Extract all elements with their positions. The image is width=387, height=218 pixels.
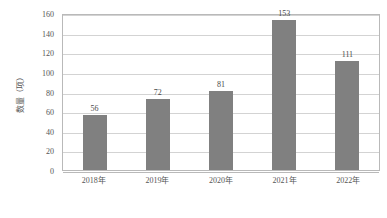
y-axis-tick-label: 140 (42, 29, 54, 38)
y-axis-tick-label: 60 (46, 108, 54, 117)
x-axis-tick-label: 2022年 (316, 174, 380, 194)
y-axis-tick-label: 20 (46, 147, 54, 156)
bar-value-label: 153 (278, 9, 290, 18)
y-axis-tick-label: 80 (46, 88, 54, 97)
bar[interactable]: 111 (335, 61, 359, 170)
bar-value-label: 111 (342, 50, 353, 59)
bar-value-label: 56 (91, 104, 99, 113)
gridline (63, 172, 379, 173)
y-axis-tick-label: 160 (42, 10, 54, 19)
y-axis-title-text: 数量（项） (14, 73, 25, 113)
bar-slot: 72 (126, 15, 189, 170)
x-axis-tick-label: 2018年 (62, 174, 126, 194)
y-axis-tick-label: 120 (42, 49, 54, 58)
bar[interactable]: 72 (146, 99, 170, 170)
y-axis-title: 数量（项） (8, 0, 30, 185)
plot-area: 567281153111 (62, 14, 380, 171)
bar[interactable]: 81 (209, 91, 233, 170)
y-axis-tick-labels: 020406080100120140160 (28, 14, 58, 171)
x-axis-tick-labels: 2018年2019年2020年2021年2022年 (62, 174, 380, 194)
y-axis-tick-label: 100 (42, 68, 54, 77)
bar[interactable]: 56 (83, 115, 107, 170)
bar-slot: 153 (253, 15, 316, 170)
y-axis-tick-label: 0 (50, 167, 54, 176)
y-axis-tick-label: 40 (46, 127, 54, 136)
x-axis-tick-label: 2019年 (126, 174, 190, 194)
bar[interactable]: 153 (272, 20, 296, 170)
bar-slot: 81 (189, 15, 252, 170)
bars-layer: 567281153111 (63, 15, 379, 170)
bar-chart: 数量（项） 020406080100120140160 567281153111… (0, 0, 387, 218)
bar-value-label: 72 (154, 88, 162, 97)
x-axis-tick-label: 2020年 (189, 174, 253, 194)
bar-value-label: 81 (217, 80, 225, 89)
bar-slot: 56 (63, 15, 126, 170)
bar-slot: 111 (316, 15, 379, 170)
x-axis-tick-label: 2021年 (253, 174, 317, 194)
